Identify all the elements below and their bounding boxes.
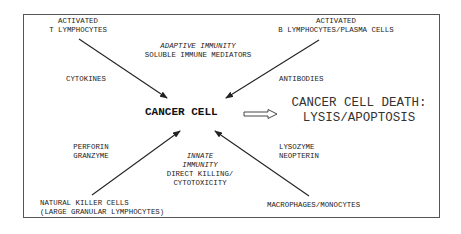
perforin-label: PERFORIN bbox=[73, 143, 108, 152]
cytokines-label: CYTOKINES bbox=[66, 75, 106, 84]
innate-heading-1: INNATE bbox=[167, 152, 234, 161]
adaptive-immunity-label: ADAPTIVE IMMUNITY SOLUBLE IMMUNE MEDIATO… bbox=[145, 42, 251, 60]
innate-sub-2: CYTOTOXICITY bbox=[167, 179, 234, 188]
b-cells-label-1: ACTIVATED bbox=[278, 17, 393, 26]
innate-heading-2: IMMUNITY bbox=[167, 161, 234, 170]
innate-immunity-label: INNATE IMMUNITY DIRECT KILLING/ CYTOTOXI… bbox=[167, 152, 234, 188]
t-cells-node: ACTIVATED T LYMPHOCYTES bbox=[49, 17, 107, 35]
nk-cells-node: NATURAL KILLER CELLS (LARGE GRANULAR LYM… bbox=[40, 199, 164, 217]
b-cells-node: ACTIVATED B LYMPHOCYTES/PLASMA CELLS bbox=[278, 17, 393, 35]
t-cells-label-2: T LYMPHOCYTES bbox=[49, 26, 107, 35]
lysozyme-label: LYSOZYME bbox=[279, 143, 319, 152]
b-cells-label-2: B LYMPHOCYTES/PLASMA CELLS bbox=[278, 26, 393, 35]
outcome-label: CANCER CELL DEATH: LYSIS/APOPTOSIS bbox=[291, 96, 426, 126]
outcome-line-2: LYSIS/APOPTOSIS bbox=[291, 111, 426, 126]
macrophages-node: MACROPHAGES/MONOCYTES bbox=[267, 201, 360, 210]
nk-mediators-label: PERFORIN GRANZYME bbox=[73, 143, 108, 161]
nk-cells-label-2: (LARGE GRANULAR LYMPHOCYTES) bbox=[40, 208, 164, 217]
hollow-arrow-to-death bbox=[244, 110, 277, 119]
neopterin-label: NEOPTERIN bbox=[279, 152, 319, 161]
cancer-cell-label: CANCER CELL bbox=[145, 106, 218, 119]
innate-sub-1: DIRECT KILLING/ bbox=[167, 170, 234, 179]
nk-cells-label-1: NATURAL KILLER CELLS bbox=[40, 199, 164, 208]
macrophage-mediators-label: LYSOZYME NEOPTERIN bbox=[279, 143, 319, 161]
antibodies-label: ANTIBODIES bbox=[279, 75, 323, 84]
t-cells-label-1: ACTIVATED bbox=[49, 17, 107, 26]
adaptive-heading: ADAPTIVE IMMUNITY bbox=[145, 42, 251, 51]
adaptive-subheading: SOLUBLE IMMUNE MEDIATORS bbox=[145, 51, 251, 60]
outcome-line-1: CANCER CELL DEATH: bbox=[291, 96, 426, 111]
granzyme-label: GRANZYME bbox=[73, 152, 108, 161]
